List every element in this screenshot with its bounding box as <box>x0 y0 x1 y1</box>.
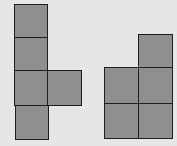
square <box>14 4 48 38</box>
square <box>47 70 82 106</box>
square <box>15 105 49 140</box>
square <box>14 70 48 106</box>
square <box>104 67 139 104</box>
square <box>104 103 139 139</box>
square <box>138 103 173 139</box>
square <box>14 37 48 72</box>
square <box>138 34 173 69</box>
square <box>138 67 173 104</box>
